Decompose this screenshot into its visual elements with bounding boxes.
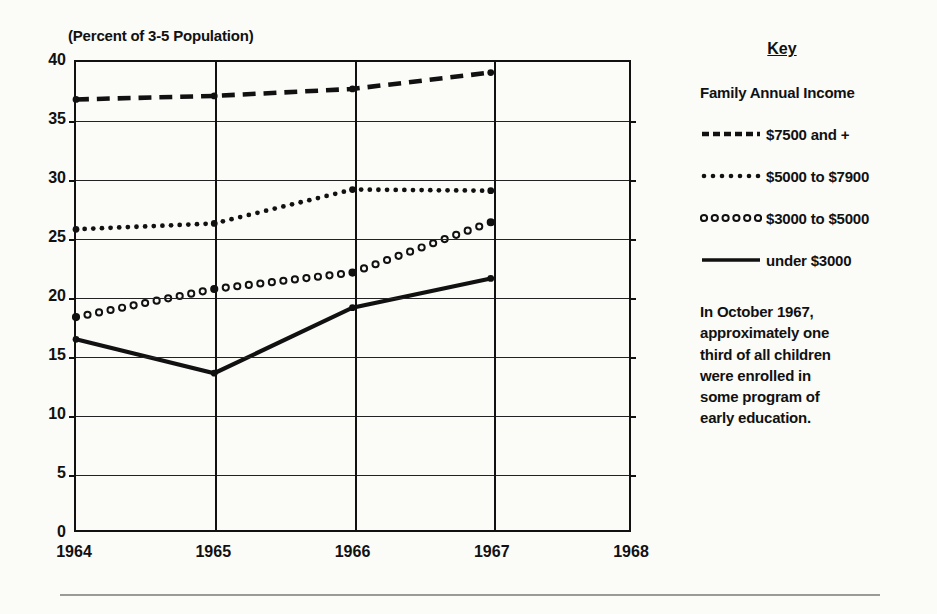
legend-item[interactable]: $7500 and + (700, 115, 930, 153)
series-open-circle (407, 249, 413, 255)
series-open-circle (338, 271, 344, 277)
y-tick-right (629, 239, 636, 241)
y-tick-right (629, 298, 636, 300)
gridline-vertical (494, 62, 496, 530)
y-tick-label: 0 (26, 523, 66, 541)
series-open-circle (453, 232, 459, 238)
y-tick-label: 35 (26, 110, 66, 128)
legend-item-label: $5000 to $7900 (766, 168, 869, 185)
series-dashed (73, 69, 495, 103)
series-open-circle (465, 228, 471, 234)
plot-area (74, 60, 631, 532)
series-open-circle (257, 280, 263, 286)
y-tick-label: 40 (26, 51, 66, 69)
legend-item[interactable]: under $3000 (700, 241, 930, 279)
legend-item-label: $7500 and + (766, 126, 849, 143)
y-tick-left (69, 239, 76, 241)
y-tick-label: 20 (26, 287, 66, 305)
x-tick-label: 1968 (613, 543, 649, 561)
series-open-circle (476, 223, 482, 229)
y-tick-right (629, 357, 636, 359)
y-tick-right (629, 475, 636, 477)
chart-title: (Percent of 3-5 Population) (68, 27, 253, 44)
series-dot (359, 187, 364, 192)
series-dot (376, 187, 381, 192)
series-line (76, 73, 491, 100)
data-point-marker (73, 96, 80, 103)
y-axis-labels: 0510152025303540 (18, 60, 66, 532)
series-dot (203, 221, 208, 226)
y-tick-left (69, 121, 76, 123)
data-point-marker (73, 314, 80, 321)
series-dot (298, 200, 303, 205)
series-dot (186, 222, 191, 227)
y-tick-left (69, 357, 76, 359)
series-dot (437, 188, 442, 193)
y-tick-label: 15 (26, 346, 66, 364)
x-tick-label: 1967 (474, 543, 510, 561)
legend: Key Family Annual Income $7500 and +$500… (700, 40, 930, 429)
gridline-vertical (215, 62, 217, 530)
gridline-vertical (355, 62, 357, 530)
series-open-circle (396, 253, 402, 259)
series-layer (76, 62, 629, 530)
series-dot (238, 215, 243, 220)
series-solid (73, 275, 495, 377)
series-dot (160, 223, 165, 228)
series-dot (454, 188, 459, 193)
series-dot (143, 224, 148, 229)
series-dot (290, 202, 295, 207)
legend-item-label: $3000 to $5000 (766, 210, 869, 227)
series-open-circle (384, 257, 390, 263)
series-dot (195, 222, 200, 227)
series-open-circle (419, 244, 425, 250)
y-tick-label: 25 (26, 228, 66, 246)
y-tick-left (69, 475, 76, 477)
series-open-circle (96, 309, 102, 315)
solid-line-swatch (700, 253, 762, 267)
series-dot (272, 206, 277, 211)
legend-item-label: under $3000 (766, 252, 851, 269)
series-dot (134, 224, 139, 229)
series-dot (221, 219, 226, 224)
gridline-horizontal (76, 298, 629, 299)
legend-note: In October 1967, approximately one third… (700, 301, 850, 429)
legend-item[interactable]: $5000 to $7900 (700, 157, 930, 195)
gridline-horizontal (76, 121, 629, 122)
series-open-circle (142, 300, 148, 306)
series-open-circle (223, 285, 229, 291)
series-dot (177, 223, 182, 228)
series-dot (91, 226, 96, 231)
y-tick-left (69, 180, 76, 182)
y-tick-label: 10 (26, 405, 66, 423)
series-open-circle (234, 283, 240, 289)
series-dot (480, 188, 485, 193)
x-axis-labels: 19641965196619671968 (0, 543, 700, 569)
series-dot (151, 224, 156, 229)
dotted-line-swatch (700, 169, 762, 183)
x-tick-label: 1966 (335, 543, 371, 561)
y-tick-left (69, 298, 76, 300)
data-point-marker (73, 336, 80, 343)
series-dotted (73, 186, 495, 233)
series-dot (367, 187, 372, 192)
series-open-circle (188, 291, 194, 297)
series-dot (419, 188, 424, 193)
series-open-circle (84, 312, 90, 318)
y-tick-left (69, 416, 76, 418)
series-dot (341, 189, 346, 194)
series-dot (82, 227, 87, 232)
series-open-circle (303, 275, 309, 281)
series-dot (411, 188, 416, 193)
chart-page: (Percent of 3-5 Population) 051015202530… (0, 0, 937, 614)
gridline-horizontal (76, 475, 629, 476)
legend-item[interactable]: $3000 to $5000 (700, 199, 930, 237)
series-dot (169, 223, 174, 228)
data-point-marker (73, 226, 80, 233)
series-open-circles (73, 219, 495, 321)
gridline-horizontal (76, 357, 629, 358)
x-tick-label: 1964 (56, 543, 92, 561)
series-open-circle (326, 272, 332, 278)
y-tick-label: 5 (26, 464, 66, 482)
y-tick-right (629, 121, 636, 123)
